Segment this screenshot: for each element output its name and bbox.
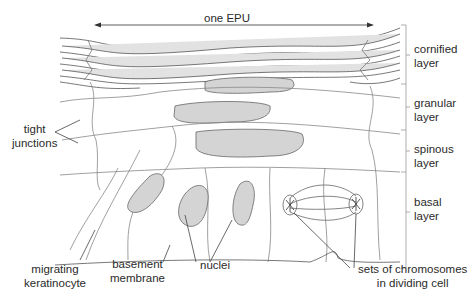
layer-label-line2: layer bbox=[414, 110, 456, 124]
epidermal-proliferative-unit-diagram: one EPU cornified layer granular layer s… bbox=[0, 0, 469, 298]
layer-label-granular: granular layer bbox=[414, 96, 456, 124]
label-line1: migrating bbox=[24, 262, 86, 276]
layer-label-line1: spinous bbox=[414, 142, 454, 156]
layer-label-line2: layer bbox=[414, 209, 442, 223]
label-line2: in dividing cell bbox=[358, 276, 467, 290]
dividing-cell-spindle bbox=[283, 185, 363, 220]
layer-label-line1: basal bbox=[414, 195, 442, 209]
label-line1: sets of chromosomes bbox=[358, 262, 467, 276]
layer-label-line1: granular bbox=[414, 96, 456, 110]
layer-label-cornified: cornified layer bbox=[414, 42, 457, 70]
label-tight-junctions: tight junctions bbox=[12, 122, 57, 150]
label-line1: basement bbox=[110, 257, 165, 271]
layer-bracket bbox=[401, 25, 410, 268]
layer-label-spinous: spinous layer bbox=[414, 142, 454, 170]
label-chromosomes: sets of chromosomes in dividing cell bbox=[358, 262, 467, 290]
layer-label-line2: layer bbox=[414, 156, 454, 170]
label-line2: junctions bbox=[12, 136, 57, 150]
label-basement-membrane: basement membrane bbox=[110, 257, 165, 285]
label-line1: tight bbox=[12, 122, 57, 136]
nuclei-basal bbox=[128, 174, 255, 227]
label-line2: membrane bbox=[110, 271, 165, 285]
label-line2: keratinocyte bbox=[24, 276, 86, 290]
layer-label-line2: layer bbox=[414, 56, 457, 70]
label-nuclei: nuclei bbox=[200, 258, 230, 272]
diagram-drawing bbox=[0, 0, 469, 298]
label-migrating-keratinocyte: migrating keratinocyte bbox=[24, 262, 86, 290]
layer-label-basal: basal layer bbox=[414, 195, 442, 223]
layer-label-line1: cornified bbox=[414, 42, 457, 56]
epu-title: one EPU bbox=[204, 11, 250, 25]
